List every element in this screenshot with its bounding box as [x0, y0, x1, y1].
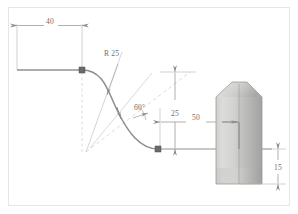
spline-end-node[interactable]: [155, 146, 161, 152]
spline-curve: [82, 70, 158, 149]
technical-drawing: 40 R 25 60° 25: [0, 0, 298, 214]
drawing-canvas: 40 R 25 60° 25: [0, 0, 298, 214]
dimension-label-25: 25: [171, 109, 179, 118]
dimension-label-40: 40: [46, 17, 54, 26]
revolved-solid: [216, 82, 262, 184]
dimension-label-r25: R 25: [104, 49, 119, 58]
spline-start-node[interactable]: [79, 67, 85, 73]
spline-mid-marker: [117, 107, 121, 119]
dimension-label-15: 15: [274, 163, 282, 172]
dimension-height-25: 25: [160, 72, 196, 148]
dimension-width-40: 40: [17, 17, 82, 70]
dimension-label-50: 50: [192, 113, 200, 122]
dimension-label-60: 60°: [134, 103, 145, 112]
dimension-angle-60: 60°: [133, 103, 148, 120]
